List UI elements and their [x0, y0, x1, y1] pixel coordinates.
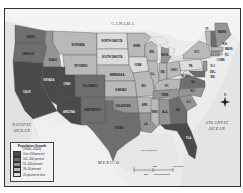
state-connecticut[interactable]: [211, 51, 219, 56]
label-south-dakota: SOUTH DAKOTA: [102, 55, 123, 59]
state-delaware[interactable]: [201, 71, 205, 77]
label-mexico: MEXICO: [98, 160, 120, 165]
map-frame: WASH. OREGON IDAHO MONTANA WYOMING NORTH…: [4, 8, 241, 187]
label-vermont: VT.: [205, 27, 209, 31]
label-massachusetts: MASS.: [225, 47, 233, 51]
label-illinois: ILL.: [151, 72, 156, 76]
label-connecticut: CONN.: [217, 58, 226, 62]
state-montana[interactable]: [53, 31, 97, 55]
label-georgia: GA.: [176, 108, 181, 112]
legend-label: Over 200 percent: [23, 152, 45, 156]
label-michigan: MICH.: [161, 53, 169, 57]
label-pacific-1: PACIFIC: [11, 122, 32, 127]
svg-text:500 kilometers: 500 kilometers: [154, 173, 170, 176]
label-oregon: OREGON: [22, 52, 34, 56]
label-missouri: MO.: [142, 84, 147, 88]
label-new-mexico: NEW MEXICO: [84, 108, 101, 112]
state-rhode-island[interactable]: [219, 51, 222, 55]
label-colorado: COLORADO: [82, 84, 97, 88]
legend-label: 25 percent or less: [23, 173, 45, 177]
legend-label: 101–200 percent: [23, 157, 44, 161]
label-virginia: VA.: [191, 80, 195, 84]
label-west-virginia: W.VA.: [181, 74, 188, 78]
label-mississippi: MISS.: [151, 110, 158, 114]
label-california: CALIF.: [23, 90, 31, 94]
legend: Population Growth (1940–2000) Over 200 p…: [10, 142, 54, 182]
label-canada: CANADA: [111, 21, 134, 26]
label-florida: FLA.: [186, 136, 192, 140]
label-indiana: IND.: [160, 70, 165, 74]
label-maine: MAINE: [218, 30, 227, 34]
label-alabama: ALA.: [162, 110, 168, 114]
label-rhode-island: R.I.: [225, 53, 229, 57]
svg-text:500 miles: 500 miles: [173, 165, 184, 168]
label-wyoming: WYOMING: [75, 64, 88, 68]
label-new-york: N.Y.: [195, 50, 200, 54]
label-idaho: IDAHO: [49, 58, 57, 62]
legend-label: 26–50 percent: [23, 167, 41, 171]
legend-swatch: [13, 172, 21, 177]
label-montana: MONTANA: [71, 43, 84, 47]
label-wash: WASH.: [27, 35, 36, 39]
svg-text:250: 250: [144, 173, 149, 176]
label-wisconsin: WIS.: [149, 50, 155, 54]
label-arkansas: ARK.: [142, 103, 149, 107]
label-pacific-2: OCEAN: [14, 128, 31, 133]
label-new-hampshire: N.H.: [222, 42, 227, 46]
legend-label: 51–100 percent: [23, 162, 42, 166]
label-texas: TEXAS: [115, 126, 124, 130]
label-atlantic-2: OCEAN: [209, 126, 226, 131]
svg-text:250: 250: [153, 165, 158, 168]
compass-north: N: [224, 93, 226, 97]
legend-item: 25 percent or less: [13, 172, 53, 177]
state-massachusetts[interactable]: [211, 47, 223, 51]
label-arizona: ARIZONA: [63, 110, 75, 114]
label-atlantic-1: ATLANTIC: [204, 120, 229, 125]
label-kentucky: KY.: [165, 84, 169, 88]
label-maryland: MD.: [211, 75, 216, 79]
label-north-dakota: NORTH DAKOTA: [102, 39, 123, 43]
label-north-carolina: N.C.: [190, 89, 195, 93]
label-utah: UTAH: [63, 82, 70, 86]
label-nebraska: NEBRASKA: [110, 73, 125, 77]
label-south-carolina: S.C.: [186, 100, 191, 104]
label-gulf-of-mexico: Gulf of Mexico: [141, 149, 157, 152]
label-louisiana: LA.: [144, 122, 148, 126]
label-kansas: KANSAS: [116, 88, 127, 92]
label-pennsylvania: PA.: [189, 64, 193, 68]
label-delaware: DEL.: [210, 70, 216, 74]
state-new-jersey[interactable]: [203, 61, 207, 71]
label-oklahoma: OKLAHOMA: [115, 104, 130, 108]
label-ohio: OHIO: [171, 68, 178, 72]
label-iowa: IOWA: [135, 63, 142, 67]
label-nevada: NEVADA: [44, 78, 55, 82]
label-minnesota: MINN.: [133, 44, 141, 48]
label-tennessee: TENN.: [161, 93, 169, 97]
label-new-jersey: N.J.: [211, 64, 216, 68]
